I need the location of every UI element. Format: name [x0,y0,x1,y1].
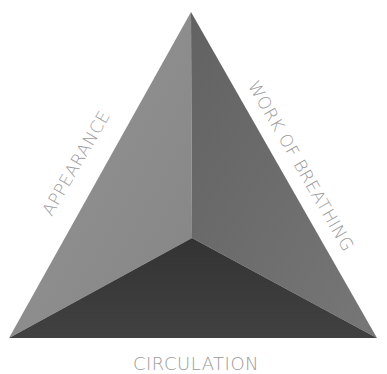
label-circulation: CIRCULATION [133,353,259,374]
